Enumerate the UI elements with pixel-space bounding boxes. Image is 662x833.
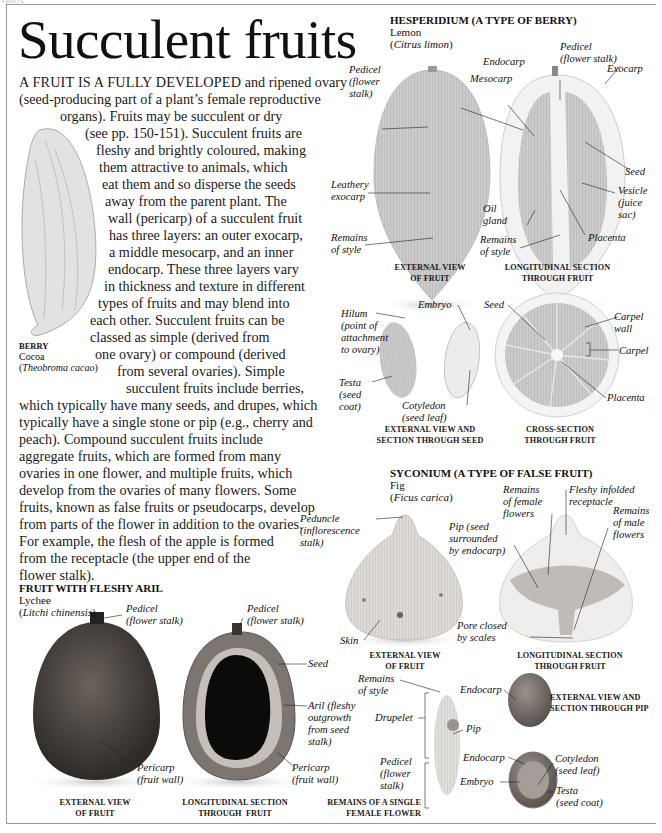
frame-bottom-rule	[6, 823, 656, 824]
caption-fig-external: EXTERNAL VIEWOF FRUIT	[360, 650, 450, 672]
hesperidium-common-name: Lemon	[390, 26, 421, 38]
label-remains-female-flowers: Remainsof femaleflowers	[503, 484, 542, 520]
label-leathery-exocarp: Leatheryexocarp	[331, 179, 369, 203]
cocoa-berry-illustration	[22, 129, 96, 336]
label-fig-skin: Skin	[340, 635, 358, 647]
label-drupelet: Drupelet	[375, 712, 413, 724]
syconium-heading: SYCONIUM (A TYPE OF FALSE FRUIT)	[390, 467, 592, 479]
fig-pip-external	[508, 673, 552, 727]
fig-external-illustration	[346, 515, 463, 640]
label-cross-placenta: Placenta	[607, 392, 645, 404]
label-pip-endocarp-top: Endocarp	[460, 684, 502, 696]
caption-lychee-longitudinal: LONGITUDINAL SECTIONTHROUGH FRUIT	[170, 797, 300, 819]
label-lychee-seed: Seed	[308, 658, 328, 670]
label-remains-male-flowers: Remainsof maleflowers	[613, 505, 649, 541]
label-flower-remains-of-style: Remainsof style	[358, 673, 394, 697]
label-flower-pip: Pip	[466, 723, 481, 735]
label-lemon-placenta: Placenta	[588, 232, 626, 244]
caption-female-flower: REMAINS OF A SINGLEFEMALE FLOWER	[313, 797, 421, 819]
label-seed-cotyledon: Cotyledon(seed leaf)	[402, 400, 446, 424]
label-lychee-section-pedicel: Pedicel(flower stalk)	[247, 603, 304, 627]
label-pip-cotyledon: Cotyledon(seed leaf)	[555, 753, 599, 777]
label-lychee-pericarp: Pericarp(fruit wall)	[137, 762, 183, 786]
label-carpel-wall: Carpelwall	[614, 311, 643, 335]
fig-flower-illustration	[434, 695, 460, 795]
caption-cross-section: CROSS-SECTIONTHROUGH FRUIT	[515, 424, 605, 446]
hesperidium-heading: HESPERIDIUM (A TYPE OF BERRY)	[390, 14, 577, 26]
caption-seed: EXTERNAL VIEW ANDSECTION THROUGH SEED	[370, 424, 490, 446]
label-lemon-section-remains-of-style: Remainsof style	[480, 234, 516, 258]
page-title: Succulent fruits	[18, 10, 357, 70]
label-lemon-exocarp: Exocarp	[607, 63, 643, 75]
label-lemon-remains-of-style: Remainsof style	[331, 232, 367, 256]
intro-lead: A FRUIT IS A FULLY DEVELOPED	[19, 74, 241, 90]
frame-top-rule	[6, 4, 656, 5]
label-lemon-endocarp: Endocarp	[483, 56, 525, 68]
syconium-common-name: Fig	[390, 479, 405, 491]
caption-fig-longitudinal: LONGITUDINAL SECTIONTHROUGH FRUIT	[510, 650, 630, 672]
label-peduncle: Peduncle(inflorescencestalk)	[300, 513, 360, 549]
caption-lemon-external: EXTERNAL VIEWOF FRUIT	[380, 262, 480, 284]
label-flower-pedicel: Pedicel(flowerstalk)	[380, 756, 412, 792]
label-lychee-aril: Aril (fleshyoutgrowthfrom seedstalk)	[308, 700, 355, 748]
label-cross-seed: Seed	[484, 299, 504, 311]
lemon-cross-section	[495, 293, 619, 417]
aril-common-name: Lychee	[19, 594, 51, 606]
lychee-section-illustration	[183, 632, 295, 780]
fig-pip-section	[509, 752, 557, 808]
lychee-external-illustration	[33, 622, 160, 780]
label-lemon-section-pedicel: Pedicel(flower stalk)	[560, 41, 617, 65]
label-lemon-seed: Seed	[625, 166, 645, 178]
label-lychee-pedicel: Pedicel(flower stalk)	[126, 603, 183, 627]
label-carpel: Carpel	[619, 345, 648, 357]
label-pip-endocarp: Endocarp	[463, 752, 505, 764]
label-lemon-mesocarp: Mesocarp	[470, 73, 512, 85]
label-testa: Testa(seedcoat)	[339, 377, 361, 413]
label-lemon-oil-gland: Oilgland	[483, 203, 507, 227]
label-fig-pip: Pip (seedsurroundedby endocarp)	[449, 521, 505, 557]
caption-pip: EXTERNAL VIEW ANDSECTION THROUGH PIP	[550, 692, 660, 714]
berry-latin-name: (Theobroma cacao)	[19, 362, 98, 374]
hesperidium-latin-name: (Citrus limon)	[390, 38, 453, 50]
label-lemon-pedicel: Pedicel(flowerstalk)	[349, 64, 381, 100]
aril-heading: FRUIT WITH FLESHY ARIL	[19, 582, 163, 594]
lemon-seed-section	[440, 320, 484, 400]
label-seed-embryo: Embryo	[418, 299, 452, 311]
label-pip-testa: Testa(seed coat)	[556, 785, 603, 809]
caption-lychee-external: EXTERNAL VIEWOF FRUIT	[45, 797, 145, 819]
caption-lemon-longitudinal: LONGITUDINAL SECTIONTHROUGH FRUIT	[495, 262, 620, 284]
frame-left-rule	[6, 4, 7, 824]
label-pore: Pore closedby scales	[457, 620, 507, 644]
label-lychee-section-pericarp: Pericarp(fruit wall)	[292, 762, 338, 786]
aril-latin-name: (Litchi chinensis)	[19, 606, 96, 618]
label-lemon-vesicle: Vesicle(juicesac)	[618, 185, 647, 221]
syconium-latin-name: (Ficus carica)	[390, 491, 453, 503]
label-hilum: Hilum(point ofattachmentto ovary)	[341, 308, 388, 356]
label-pip-embryo: Embryo	[460, 776, 494, 788]
